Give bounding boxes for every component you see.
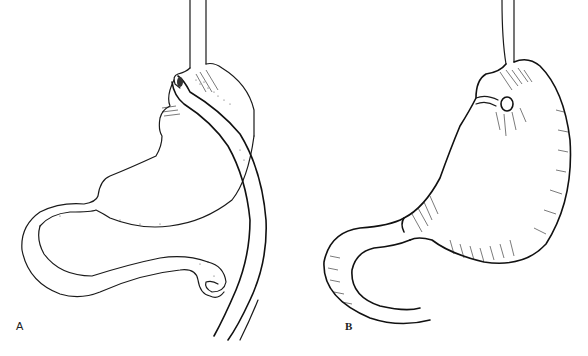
panel-a-illustration [0,0,300,356]
panel-label-b: B [345,320,352,332]
panel-b-illustration [300,0,588,356]
panel-label-a: A [16,320,23,332]
panel-a: A [0,0,300,356]
panel-b: B [300,0,588,356]
anatomical-figure: A B [0,0,588,356]
